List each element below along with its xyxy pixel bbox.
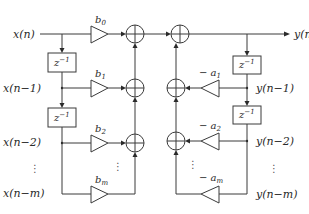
iir-filter-diagram: x(n) x(n−1) x(n−2) ⋮ x(n−m) b0 z−1 b1 z−… bbox=[0, 0, 309, 214]
arrow-icon bbox=[166, 32, 171, 37]
arrow-icon bbox=[174, 150, 179, 155]
label-x-n-m: x(n−m) bbox=[3, 187, 45, 200]
arrow-icon bbox=[284, 32, 290, 37]
label-y-n-m: y(n−m) bbox=[255, 188, 298, 201]
gain-a2-triangle bbox=[201, 133, 219, 150]
arrow-icon bbox=[245, 101, 250, 106]
arrow-icon bbox=[60, 48, 65, 53]
gain-am-triangle bbox=[201, 186, 219, 203]
gain-a1-triangle bbox=[201, 80, 219, 97]
ellipsis-left-gains: ⋮ bbox=[113, 161, 123, 172]
arrow-icon bbox=[174, 43, 179, 48]
gain-bm-triangle bbox=[91, 186, 108, 203]
arrow-icon bbox=[121, 32, 126, 37]
label-y-n: y(n) bbox=[293, 28, 309, 41]
label-x-n: x(n) bbox=[13, 28, 35, 41]
coef-bm: bm bbox=[95, 174, 108, 187]
arrow-icon bbox=[133, 97, 138, 102]
arrow-icon bbox=[245, 51, 250, 56]
ellipsis-right-gains: ⋮ bbox=[188, 159, 198, 170]
ellipsis-left-labels: ⋮ bbox=[30, 163, 40, 174]
ellipsis-right-labels: ⋮ bbox=[269, 163, 279, 174]
arrow-icon bbox=[121, 141, 126, 146]
arrow-icon bbox=[185, 139, 190, 144]
gain-b2-triangle bbox=[91, 135, 108, 152]
label-y-n-1: y(n−1) bbox=[255, 82, 294, 95]
arrow-icon bbox=[121, 86, 126, 91]
label-x-n-1: x(n−1) bbox=[3, 82, 41, 95]
arrow-icon bbox=[133, 43, 138, 48]
arrow-icon bbox=[60, 103, 65, 108]
label-x-n-2: x(n−2) bbox=[3, 136, 41, 149]
label-y-n-2: y(n−2) bbox=[255, 135, 294, 148]
coef-a1: − a1 bbox=[199, 67, 221, 80]
gain-b1-triangle bbox=[91, 80, 108, 97]
coef-am: − am bbox=[199, 172, 224, 185]
arrow-icon bbox=[133, 152, 138, 157]
coef-b1: b1 bbox=[95, 68, 106, 81]
coef-b0: b0 bbox=[95, 14, 106, 27]
arrow-icon bbox=[185, 86, 190, 91]
coef-b2: b2 bbox=[95, 123, 106, 136]
gain-b0-triangle bbox=[91, 26, 108, 43]
arrow-icon bbox=[174, 97, 179, 102]
coef-a2: − a2 bbox=[199, 120, 222, 133]
